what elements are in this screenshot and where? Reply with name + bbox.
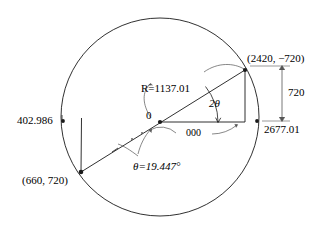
upper-right-point-marker: [243, 68, 247, 72]
right-extent-point-marker: [255, 119, 259, 123]
dimension-720-label: 720: [288, 87, 305, 98]
radius-label: R=1137.01: [141, 83, 190, 94]
chord-dot-2: [141, 132, 143, 134]
origin-label: 0: [146, 110, 152, 121]
left-vertical-line: [81, 118, 82, 172]
zero-angle-arc-right: [212, 125, 237, 134]
lower-left-point-marker: [79, 170, 84, 175]
left-extent-point-marker: [61, 119, 65, 123]
radius-leader-arc: [204, 64, 244, 72]
two-theta-label: 2θ: [209, 98, 220, 109]
zero-angle-label: 000: [186, 128, 201, 138]
main-circle: [61, 18, 259, 216]
right-extent-label: 2677.01: [264, 124, 300, 135]
theta-leader-line: [118, 144, 138, 156]
geometry-diagram: R=1137.01 0 2θ 000 θ=19.447° (2420, −720…: [0, 0, 325, 234]
origin-point-marker: [158, 120, 162, 124]
chord-dot-1: [131, 138, 133, 140]
upper-right-point-label: (2420, −720): [247, 53, 305, 64]
zero-angle-arc-left: [150, 127, 176, 133]
left-extent-label: 402.986: [17, 115, 53, 126]
zero-angle-arc-right-arrowhead: [235, 124, 238, 127]
lower-left-point-label: (660, 720): [22, 175, 68, 186]
theta-label: θ=19.447°: [133, 161, 180, 172]
